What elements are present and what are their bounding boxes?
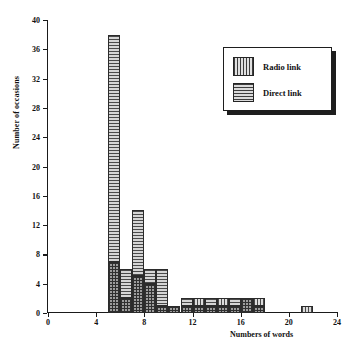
legend-label-radio-link: Radio link (263, 62, 301, 72)
bar-direct-link-5 (108, 35, 120, 262)
bar-direct-link-11 (181, 298, 193, 305)
bar-direct-link-8 (144, 269, 156, 284)
bar-direct-link-9 (156, 269, 168, 306)
bar-overlap-10 (168, 306, 180, 313)
bar-direct-link-7 (132, 210, 144, 276)
bar-overlap-17 (253, 306, 265, 313)
bar-radio-link-14 (217, 298, 229, 305)
bar-overlap-7 (132, 276, 144, 313)
bar-overlap-9 (156, 306, 168, 313)
bar-overlap-15 (229, 306, 241, 313)
histogram-chart: 048121620240481216202428323640 Number of… (0, 0, 346, 348)
bar-overlap-6 (120, 298, 132, 313)
bar-radio-link-21 (301, 306, 313, 313)
horizontal-hatch-swatch-icon (233, 83, 254, 102)
bar-direct-link-13 (205, 298, 217, 305)
bar-overlap-16 (241, 298, 253, 313)
bar-overlap-13 (205, 306, 217, 313)
bar-overlap-11 (181, 306, 193, 313)
bar-overlap-14 (217, 306, 229, 313)
bar-overlap-5 (108, 262, 120, 313)
legend-item-direct-link: Direct link (233, 83, 302, 102)
legend-label-direct-link: Direct link (263, 88, 302, 98)
vertical-hatch-swatch-icon (233, 57, 254, 76)
legend-item-radio-link: Radio link (233, 57, 301, 76)
bar-overlap-12 (193, 306, 205, 313)
bar-radio-link-12 (193, 298, 205, 305)
bar-radio-link-17 (253, 298, 265, 305)
bar-direct-link-15 (229, 298, 241, 305)
bar-overlap-8 (144, 284, 156, 313)
bar-direct-link-6 (120, 269, 132, 298)
chart-legend: Radio link Direct link (223, 47, 332, 111)
